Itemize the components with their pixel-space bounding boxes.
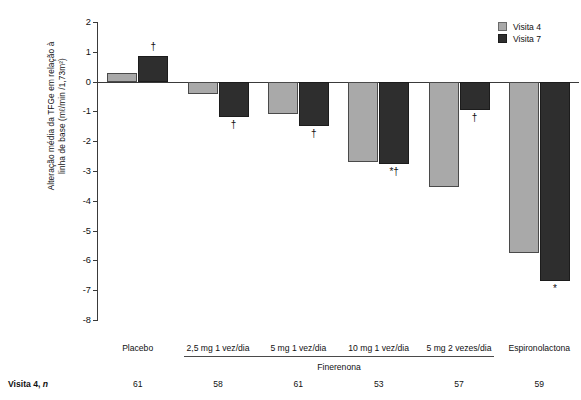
y-tick-label: -6 — [83, 255, 91, 265]
n-value: 61 — [294, 379, 304, 389]
y-tick-label: 2 — [86, 17, 91, 27]
y-tick-label: -8 — [83, 315, 91, 325]
n-row-label: Visita 4, n — [8, 379, 48, 389]
bar — [348, 82, 378, 162]
n-row-label-bold: Visita 4 — [8, 379, 38, 389]
bar — [379, 82, 409, 164]
bar — [219, 82, 249, 118]
category-label: Placebo — [122, 343, 153, 353]
zero-baseline — [97, 82, 579, 83]
y-tick-label: -7 — [83, 285, 91, 295]
plot-area: 210-1-2-3-4-5-6-7-8 †††*††* — [98, 22, 580, 320]
y-tick-label: 0 — [86, 77, 91, 87]
y-tick-label: 1 — [86, 47, 91, 57]
bar — [429, 82, 459, 188]
bar — [540, 82, 570, 282]
n-value: 61 — [133, 379, 143, 389]
legend: Visita 4 Visita 7 — [498, 21, 541, 45]
category-label: 2,5 mg 1 vez/dia — [186, 343, 249, 353]
bar — [268, 82, 298, 115]
n-value: 59 — [535, 379, 545, 389]
y-tick-label: -2 — [83, 136, 91, 146]
finerenona-bracket-rule — [184, 356, 493, 357]
category-label: 5 mg 2 vezes/dia — [427, 343, 492, 353]
legend-item-visita-4: Visita 4 — [498, 21, 541, 32]
bar — [188, 82, 218, 94]
annotation-marker: † — [231, 120, 237, 130]
y-tick-label: -1 — [83, 106, 91, 116]
finerenona-bracket-label: Finerenona — [317, 362, 360, 372]
y-tick-label: -5 — [83, 226, 91, 236]
legend-swatch-icon — [498, 22, 507, 31]
category-labels: Placebo2,5 mg 1 vez/dia5 mg 1 vez/dia10 … — [0, 343, 581, 355]
legend-item-visita-7: Visita 7 — [498, 33, 541, 44]
y-tick-label: -4 — [83, 196, 91, 206]
legend-swatch-icon — [498, 34, 507, 43]
category-label: Espironolactona — [509, 343, 571, 353]
chart-figure: Alteração média da TFGe em relação à lin… — [0, 0, 581, 400]
bar — [460, 82, 490, 110]
bar — [107, 73, 137, 82]
category-label: 5 mg 1 vez/dia — [270, 343, 326, 353]
bar — [299, 82, 329, 127]
y-tick-label: -3 — [83, 166, 91, 176]
annotation-marker: *† — [389, 167, 398, 177]
annotation-marker: † — [150, 42, 156, 52]
n-row-label-italic: n — [43, 379, 48, 389]
annotation-marker: † — [311, 129, 317, 139]
legend-label: Visita 4 — [513, 22, 541, 32]
bar — [509, 82, 539, 253]
legend-label: Visita 7 — [513, 34, 541, 44]
category-label: 10 mg 1 vez/dia — [348, 343, 409, 353]
n-value: 58 — [213, 379, 223, 389]
annotation-marker: * — [553, 284, 557, 294]
annotation-marker: † — [472, 113, 478, 123]
y-axis-title: Alteração média da TFGe em relação à lin… — [46, 0, 68, 261]
n-value: 57 — [454, 379, 464, 389]
bar — [138, 56, 168, 81]
n-value: 53 — [374, 379, 384, 389]
